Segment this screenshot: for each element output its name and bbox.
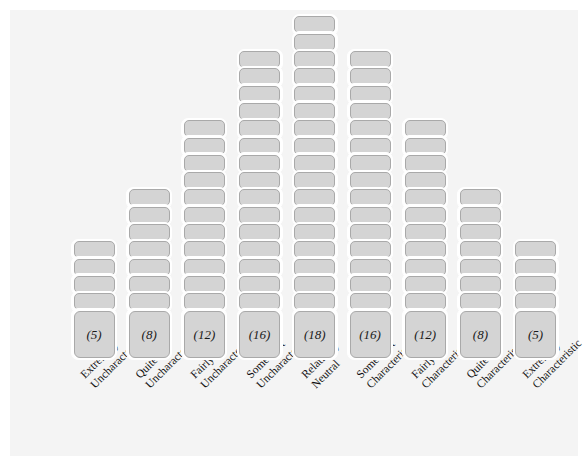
distribution-column: (8) <box>126 187 174 360</box>
sort-card-base[interactable]: (8) <box>457 308 503 360</box>
sort-card-face: (5) <box>515 311 556 358</box>
column-count-label: (12) <box>406 328 445 341</box>
card-stack: (5) <box>71 239 119 360</box>
figure-canvas: (5)ExtremelyUncharacteristic(8)QuiteUnch… <box>0 0 587 469</box>
column-count-label: (5) <box>75 328 114 341</box>
sort-card-base[interactable]: (8) <box>126 308 172 360</box>
column-count-label: (8) <box>461 328 500 341</box>
sort-card-face: (12) <box>184 311 225 358</box>
column-count-label: (16) <box>351 328 390 341</box>
sort-card-base[interactable]: (12) <box>402 308 448 360</box>
distribution-column: (8) <box>457 187 505 360</box>
distribution-column: (16) <box>237 49 285 361</box>
sort-card-base[interactable]: (18) <box>292 308 338 360</box>
card-stack: (8) <box>457 187 505 360</box>
sort-card-base[interactable]: (5) <box>513 308 559 360</box>
sort-card-face: (18) <box>294 311 335 358</box>
column-count-label: (16) <box>240 328 279 341</box>
distribution-column: (16) <box>347 49 395 361</box>
distribution-column: (5) <box>71 239 119 360</box>
sort-card-base[interactable]: (5) <box>71 308 117 360</box>
distribution-column: (12) <box>181 118 229 360</box>
sort-card-face: (16) <box>239 311 280 358</box>
distribution-column: (12) <box>402 118 450 360</box>
distribution-column: (5) <box>513 239 561 360</box>
card-stack: (18) <box>292 14 340 360</box>
sort-card-face: (12) <box>405 311 446 358</box>
column-count-label: (18) <box>295 328 334 341</box>
distribution-column: (18) <box>292 14 340 360</box>
card-stack: (12) <box>402 118 450 360</box>
q-sort-distribution-chart: (5)ExtremelyUncharacteristic(8)QuiteUnch… <box>10 10 578 456</box>
card-stack: (16) <box>237 49 285 361</box>
sort-card-base[interactable]: (16) <box>237 308 283 360</box>
column-count-label: (5) <box>516 328 555 341</box>
sort-card-base[interactable]: (12) <box>181 308 227 360</box>
sort-card-face: (8) <box>129 311 170 358</box>
card-stack: (12) <box>181 118 229 360</box>
chart-panel: (5)ExtremelyUncharacteristic(8)QuiteUnch… <box>10 10 578 456</box>
column-count-label: (8) <box>130 328 169 341</box>
sort-card-base[interactable]: (16) <box>347 308 393 360</box>
sort-card-face: (8) <box>460 311 501 358</box>
card-stack: (8) <box>126 187 174 360</box>
sort-card-face: (16) <box>350 311 391 358</box>
card-stack: (5) <box>513 239 561 360</box>
card-stack: (16) <box>347 49 395 361</box>
sort-card-face: (5) <box>74 311 115 358</box>
column-count-label: (12) <box>185 328 224 341</box>
